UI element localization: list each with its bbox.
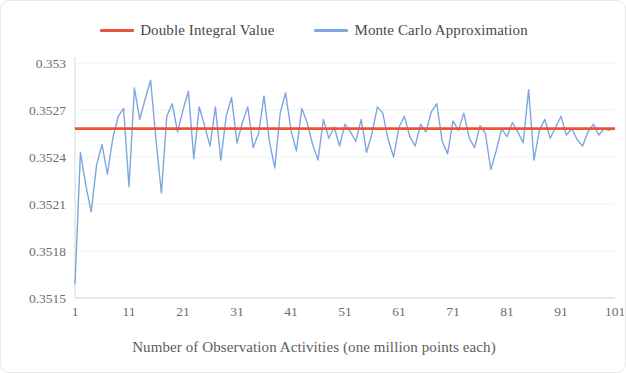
x-tick-label: 71 [446, 304, 460, 319]
x-tick-label: 81 [500, 304, 514, 319]
y-tick-label: 0.3524 [29, 150, 66, 165]
gridlines [75, 63, 615, 298]
y-tick-label: 0.3518 [29, 244, 66, 259]
y-axis-tick-labels: 0.35150.35180.35210.35240.35270.353 [29, 56, 66, 306]
monte-carlo-approximation-line [75, 80, 610, 284]
x-tick-label: 1 [72, 304, 79, 319]
plot-area: 0.35150.35180.35210.35240.35270.353 1112… [1, 1, 626, 373]
x-tick-label: 11 [123, 304, 136, 319]
x-tick-label: 31 [230, 304, 244, 319]
x-axis-tick-labels: 1112131415161718191101 [72, 304, 626, 319]
y-tick-label: 0.353 [36, 56, 67, 71]
x-tick-label: 41 [284, 304, 298, 319]
x-tick-label: 21 [176, 304, 190, 319]
x-tick-label: 51 [338, 304, 352, 319]
x-tick-label: 61 [392, 304, 406, 319]
y-tick-label: 0.3515 [29, 291, 66, 306]
chart-container: Double Integral Value Monte Carlo Approx… [0, 0, 626, 373]
y-tick-label: 0.3527 [29, 103, 66, 118]
x-tick-label: 91 [554, 304, 568, 319]
y-tick-label: 0.3521 [29, 197, 66, 212]
x-axis-title: Number of Observation Activities (one mi… [1, 339, 626, 356]
x-tick-label: 101 [605, 304, 625, 319]
